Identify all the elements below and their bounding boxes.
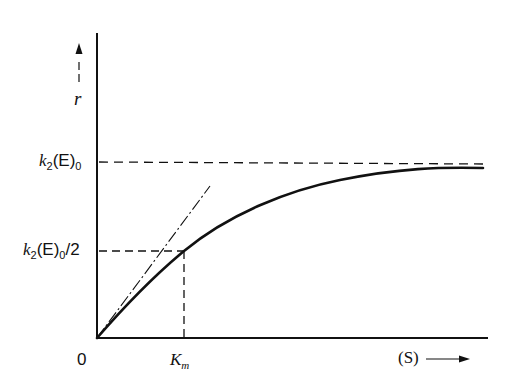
km-label: Km [170,350,189,371]
half-e: (E) [37,240,60,259]
vmax-e: (E) [53,151,76,170]
km-k: K [170,350,181,369]
half-k: k [23,240,31,259]
vmax-asymptote [99,162,483,164]
initial-tangent [97,186,210,338]
half-tail: /2 [65,240,79,259]
vmax-label: k2(E)0 [39,151,81,172]
origin-label: 0 [77,350,86,370]
x-axis-label: (S) [398,348,419,368]
y-arrow-head-icon [76,43,83,54]
y-axis-label: r [74,88,81,110]
x-arrow-head-icon [459,356,470,363]
half-max-label: k2(E)0/2 [23,240,80,261]
rate-curve [97,168,483,338]
vmax-k: k [39,151,47,170]
vmax-sub2: 0 [75,160,81,172]
michaelis-menten-plot [0,0,521,389]
km-sub: m [181,359,189,371]
